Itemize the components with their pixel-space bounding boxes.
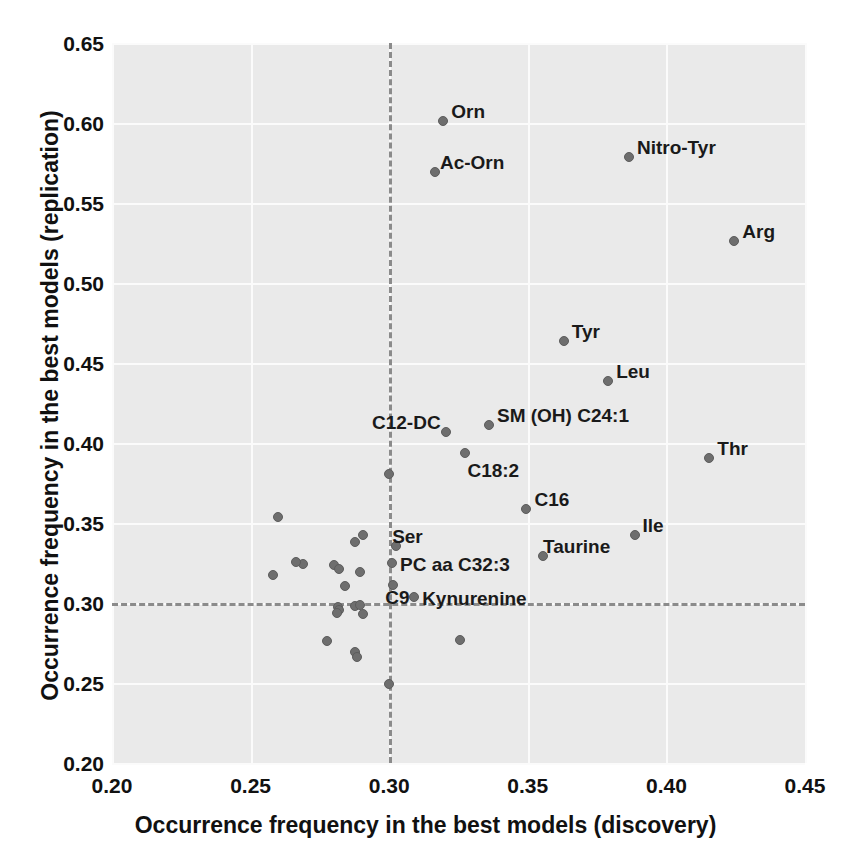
- data-point-leu: [603, 376, 613, 386]
- data-point-pc-aa-c32-3: [387, 558, 397, 568]
- data-point: [455, 635, 465, 645]
- gridline-horizontal: [112, 283, 805, 285]
- data-point-arg: [729, 236, 739, 246]
- data-point-label: SM (OH) C24:1: [497, 406, 629, 425]
- data-point: [273, 512, 283, 522]
- data-point-label: C9: [385, 588, 409, 607]
- plot-area: OrnAc-OrnNitro-TyrArgTyrLeuC12-DCSM (OH)…: [112, 43, 805, 763]
- data-point-label: Ile: [643, 516, 664, 535]
- data-point: [350, 537, 360, 547]
- data-point-tyr: [559, 336, 569, 346]
- data-point: [332, 608, 342, 618]
- data-point-label: Ac-Orn: [440, 153, 504, 172]
- data-point-ac-orn: [430, 167, 440, 177]
- data-point-label: Nitro-Tyr: [637, 138, 716, 157]
- gridline-horizontal: [112, 763, 805, 765]
- data-point-sm-oh-c24-1: [484, 420, 494, 430]
- data-point: [358, 530, 368, 540]
- data-point-label: Kynurenine: [422, 589, 527, 608]
- data-point: [384, 679, 394, 689]
- x-tick-label: 0.25: [230, 775, 271, 796]
- data-point-label: Tyr: [572, 322, 600, 341]
- reference-line-vertical: [389, 43, 392, 763]
- gridline-horizontal: [112, 43, 805, 45]
- gridline-horizontal: [112, 523, 805, 525]
- data-point-label: Thr: [717, 439, 748, 458]
- data-point-label: C18:2: [467, 461, 519, 480]
- data-point-label: C16: [534, 490, 569, 509]
- x-tick-label: 0.45: [785, 775, 826, 796]
- gridline-horizontal: [112, 683, 805, 685]
- data-point: [322, 636, 332, 646]
- data-point-thr: [704, 453, 714, 463]
- x-tick-label: 0.40: [646, 775, 687, 796]
- data-point-c12-dc: [441, 427, 451, 437]
- gridline-vertical: [251, 43, 253, 763]
- data-point-label: Arg: [742, 222, 775, 241]
- gridline-horizontal: [112, 123, 805, 125]
- x-tick-label: 0.20: [92, 775, 133, 796]
- data-point-label: Taurine: [543, 537, 610, 556]
- data-point-orn: [438, 116, 448, 126]
- x-axis-ticks: 0.200.250.300.350.400.45: [0, 775, 851, 805]
- data-point: [384, 469, 394, 479]
- data-point-label: Leu: [616, 362, 650, 381]
- y-axis-label: Occurrence frequency in the best models …: [37, 26, 64, 786]
- x-tick-label: 0.35: [507, 775, 548, 796]
- gridline-vertical: [528, 43, 530, 763]
- data-point: [352, 652, 362, 662]
- gridline-vertical: [805, 43, 807, 763]
- data-point-c16: [521, 504, 531, 514]
- data-point: [268, 570, 278, 580]
- data-point: [355, 567, 365, 577]
- x-axis-label: Occurrence frequency in the best models …: [0, 812, 851, 839]
- data-point: [358, 609, 368, 619]
- data-point-kynurenine: [409, 592, 419, 602]
- gridline-horizontal: [112, 363, 805, 365]
- gridline-vertical: [112, 43, 114, 763]
- x-tick-label: 0.30: [369, 775, 410, 796]
- data-point-label: PC aa C32:3: [400, 555, 510, 574]
- data-point-label: Orn: [451, 102, 485, 121]
- data-point: [340, 581, 350, 591]
- data-point-nitro-tyr: [624, 152, 634, 162]
- data-point: [334, 564, 344, 574]
- data-point-c18-2: [460, 448, 470, 458]
- gridline-horizontal: [112, 443, 805, 445]
- scatter-plot-figure: OrnAc-OrnNitro-TyrArgTyrLeuC12-DCSM (OH)…: [0, 0, 851, 856]
- data-point-label: C12-DC: [372, 413, 441, 432]
- data-point-ile: [630, 530, 640, 540]
- data-point-label: Ser: [392, 527, 423, 546]
- gridline-horizontal: [112, 203, 805, 205]
